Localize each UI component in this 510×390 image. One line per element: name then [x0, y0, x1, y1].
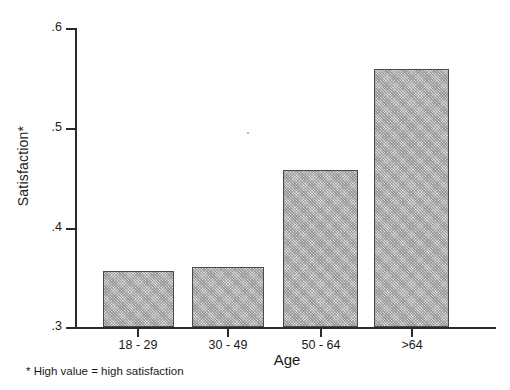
scan-artifact-speck: [247, 132, 249, 134]
y-axis-line: [75, 28, 77, 329]
y-tick-label: .5: [38, 121, 62, 133]
bar->64: [374, 69, 449, 327]
y-axis-tick-3: .3: [0, 327, 76, 329]
y-tick-label: .6: [38, 21, 62, 33]
x-tick-mark-1: [227, 329, 229, 337]
y-tick-mark: [66, 327, 76, 329]
y-tick-mark: [66, 228, 76, 230]
x-tick-mark-0: [137, 329, 139, 337]
y-tick-label: .3: [38, 320, 62, 332]
y-axis-tick-6: .6: [0, 28, 76, 30]
y-axis-title: Satisfaction*: [15, 86, 31, 246]
bar-30-49: [192, 267, 264, 327]
bar-18-29: [103, 271, 174, 327]
bar-chart-figure: .6 .5 .4 .3 Satisfaction* 18 - 29 30 - 4…: [0, 0, 510, 390]
bar-50-64: [283, 170, 358, 327]
x-tick-mark-2: [320, 329, 322, 337]
y-axis-tick-5: .5: [0, 128, 76, 130]
chart-footnote: * High value = high satisfaction: [26, 364, 184, 378]
y-tick-label: .4: [38, 221, 62, 233]
y-tick-mark: [66, 128, 76, 130]
y-axis-tick-4: .4: [0, 228, 76, 230]
x-tick-mark-3: [411, 329, 413, 337]
x-tick-label-3: >64: [357, 338, 467, 352]
y-tick-mark: [66, 28, 76, 30]
x-axis-title: Age: [237, 351, 337, 368]
